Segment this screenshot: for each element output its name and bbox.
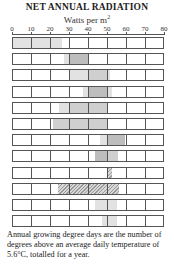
- chart-row: [12, 215, 164, 227]
- gridline: [31, 54, 32, 64]
- chart-row: [12, 183, 164, 195]
- gridline: [50, 103, 51, 113]
- gridline: [145, 103, 146, 113]
- gridline: [107, 38, 108, 48]
- gridline: [88, 184, 89, 194]
- gridline: [145, 87, 146, 97]
- gridline: [107, 151, 108, 161]
- gridline: [88, 119, 89, 129]
- range-bar: [102, 216, 117, 226]
- gridline: [50, 184, 51, 194]
- gridline: [31, 103, 32, 113]
- gridline: [31, 87, 32, 97]
- gridline: [50, 87, 51, 97]
- gridline: [50, 151, 51, 161]
- gridline: [50, 216, 51, 226]
- gridline: [69, 103, 70, 113]
- gridline: [145, 200, 146, 210]
- gridline: [107, 168, 108, 178]
- range-bar: [108, 87, 112, 97]
- gridline: [88, 216, 89, 226]
- gridline: [145, 216, 146, 226]
- axis-unit-text: Watts per m: [64, 15, 107, 25]
- gridline: [145, 38, 146, 48]
- gridline: [145, 151, 146, 161]
- gridline: [107, 184, 108, 194]
- gridline: [107, 87, 108, 97]
- gridline: [126, 168, 127, 178]
- gridline: [145, 54, 146, 64]
- gridline: [126, 87, 127, 97]
- gridline: [50, 38, 51, 48]
- range-bar: [108, 70, 110, 80]
- gridline: [69, 87, 70, 97]
- gridline: [31, 184, 32, 194]
- gridline: [50, 168, 51, 178]
- chart-title: NET ANNUAL RADIATION: [0, 2, 174, 12]
- range-bar: [108, 151, 118, 161]
- gridline: [50, 135, 51, 145]
- range-bar: [70, 70, 89, 80]
- gridline: [69, 70, 70, 80]
- chart-row: [12, 134, 164, 146]
- gridline: [31, 119, 32, 129]
- chart-row: [12, 150, 164, 162]
- gridline: [126, 103, 127, 113]
- gridline: [126, 200, 127, 210]
- gridline: [50, 54, 51, 64]
- gridline: [88, 38, 89, 48]
- gridline: [50, 200, 51, 210]
- chart-row: [12, 167, 164, 179]
- gridline: [145, 135, 146, 145]
- gridline: [107, 70, 108, 80]
- gridline: [145, 119, 146, 129]
- gridline: [69, 38, 70, 48]
- gridline: [31, 70, 32, 80]
- chart-row: [12, 118, 164, 130]
- gridline: [69, 135, 70, 145]
- range-bar: [95, 151, 108, 161]
- gridline: [88, 103, 89, 113]
- radiation-chart: NET ANNUAL RADIATION Watts per m2 010203…: [0, 0, 174, 240]
- gridline: [69, 168, 70, 178]
- gridline: [31, 38, 32, 48]
- axis-unit-label: Watts per m2: [0, 14, 174, 25]
- gridline: [88, 87, 89, 97]
- chart-row: [12, 86, 164, 98]
- gridline: [145, 70, 146, 80]
- gridline: [50, 119, 51, 129]
- range-bar: [89, 87, 108, 97]
- gridline: [126, 70, 127, 80]
- gridline: [88, 54, 89, 64]
- gridline: [126, 151, 127, 161]
- gridline: [69, 119, 70, 129]
- gridline: [31, 216, 32, 226]
- gridline: [69, 200, 70, 210]
- gridline: [69, 151, 70, 161]
- gridline: [107, 216, 108, 226]
- gridline: [126, 216, 127, 226]
- gridline: [107, 54, 108, 64]
- gridline: [31, 151, 32, 161]
- range-bar: [108, 168, 112, 178]
- range-bar: [89, 70, 108, 80]
- gridline: [107, 103, 108, 113]
- chart-caption: Annual growing degree days are the numbe…: [7, 230, 171, 260]
- gridline: [88, 151, 89, 161]
- gridline: [126, 119, 127, 129]
- chart-row: [12, 102, 164, 114]
- gridline: [88, 70, 89, 80]
- x-axis-line: [12, 34, 164, 35]
- gridline: [88, 168, 89, 178]
- range-bar: [70, 54, 89, 64]
- chart-row: [12, 37, 164, 49]
- range-bar: [53, 119, 108, 129]
- gridline: [107, 200, 108, 210]
- gridline: [69, 216, 70, 226]
- gridline: [126, 135, 127, 145]
- gridline: [126, 184, 127, 194]
- gridline: [31, 200, 32, 210]
- gridline: [31, 168, 32, 178]
- gridline: [31, 135, 32, 145]
- gridline: [107, 119, 108, 129]
